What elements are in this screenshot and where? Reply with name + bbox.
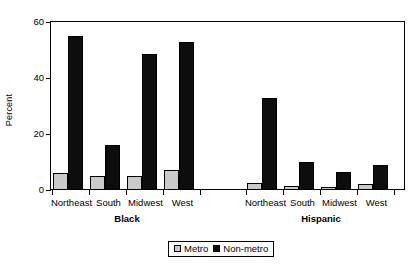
x-tick-mark (283, 190, 284, 195)
y-tick-label: 60 (18, 17, 44, 26)
x-tick-mark (320, 190, 321, 195)
x-tick-mark (394, 190, 395, 195)
y-tick-label: 0 (18, 185, 44, 194)
bar-black-midwest-non-metro (142, 54, 157, 190)
y-tick-label: 20 (18, 129, 44, 138)
bar-black-south-non-metro (105, 145, 120, 190)
bar-black-south-metro (90, 176, 105, 190)
bar-hispanic-west-non-metro (373, 165, 388, 190)
x-tick-mark (52, 190, 53, 195)
group-label-hispanic: Hispanic (271, 213, 371, 224)
legend-swatch-metro-icon (174, 245, 181, 252)
x-category-label: West (337, 197, 416, 208)
x-tick-mark (357, 190, 358, 195)
bars-layer (51, 22, 404, 190)
bar-black-northeast-non-metro (68, 36, 83, 190)
x-tick-mark (246, 190, 247, 195)
bar-black-west-metro (164, 170, 179, 190)
bar-hispanic-south-metro (284, 186, 299, 190)
bar-black-west-non-metro (179, 42, 194, 190)
legend-item-non-metro: Non-metro (213, 243, 268, 254)
bar-hispanic-northeast-metro (247, 183, 262, 190)
bar-chart: Percent 0204060 NortheastSouthMidwestWes… (0, 0, 416, 269)
y-tick-label: 40 (18, 73, 44, 82)
y-tick-mark (46, 190, 51, 191)
x-tick-mark (200, 190, 201, 195)
legend-label-metro: Metro (184, 243, 208, 254)
bar-black-northeast-metro (53, 173, 68, 190)
legend-item-metro: Metro (174, 243, 208, 254)
x-tick-mark (89, 190, 90, 195)
bar-hispanic-west-metro (358, 184, 373, 190)
bar-hispanic-northeast-non-metro (262, 98, 277, 190)
bar-hispanic-midwest-metro (321, 187, 336, 190)
x-tick-mark (126, 190, 127, 195)
bar-hispanic-south-non-metro (299, 162, 314, 190)
y-axis-title-text: Percent (4, 75, 14, 145)
x-category-label: West (143, 197, 223, 208)
bar-hispanic-midwest-non-metro (336, 172, 351, 190)
group-label-black: Black (77, 213, 177, 224)
legend-swatch-non-metro-icon (213, 245, 220, 252)
x-tick-mark (163, 190, 164, 195)
chart-legend: Metro Non-metro (168, 241, 274, 257)
legend-label-non-metro: Non-metro (223, 243, 268, 254)
bar-black-midwest-metro (127, 176, 142, 190)
